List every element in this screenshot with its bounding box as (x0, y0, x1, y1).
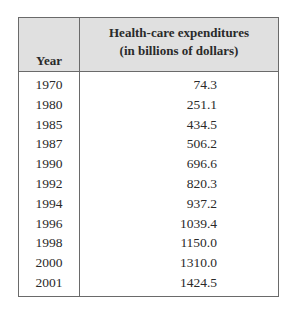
table-row: 19961039.4 (19, 214, 278, 234)
cell-year: 2001 (19, 273, 79, 293)
cell-year: 1996 (19, 214, 79, 234)
cell-year: 1998 (19, 233, 79, 253)
cell-value: 820.3 (80, 174, 217, 194)
table-row: 197074.3 (19, 75, 278, 95)
cell-year: 1970 (19, 75, 79, 95)
table-row: 1994937.2 (19, 194, 278, 214)
cell-year: 1987 (19, 134, 79, 154)
cell-value: 1150.0 (80, 233, 217, 253)
table-row: 1980251.1 (19, 95, 278, 115)
header-expenditures-line1: Health-care expenditures (80, 24, 278, 42)
cell-value: 696.6 (80, 154, 217, 174)
table-row: 20001310.0 (19, 253, 278, 273)
cell-year: 1994 (19, 194, 79, 214)
cell-value: 506.2 (80, 134, 217, 154)
table-row: 19981150.0 (19, 233, 278, 253)
cell-value: 1039.4 (80, 214, 217, 234)
table-row: 1985434.5 (19, 115, 278, 135)
table-row: 1990696.6 (19, 154, 278, 174)
cell-value: 1424.5 (80, 273, 217, 293)
cell-value: 434.5 (80, 115, 217, 135)
expenditures-table: Year Health-care expenditures (in billio… (18, 17, 279, 297)
cell-year: 1980 (19, 95, 79, 115)
header-expenditures-line2: (in billions of dollars) (80, 42, 278, 60)
cell-value: 937.2 (80, 194, 217, 214)
header-expenditures: Health-care expenditures (in billions of… (80, 24, 278, 60)
table-row: 1992820.3 (19, 174, 278, 194)
cell-year: 2000 (19, 253, 79, 273)
cell-value: 1310.0 (80, 253, 217, 273)
cell-value: 251.1 (80, 95, 217, 115)
cell-year: 1992 (19, 174, 79, 194)
table-row: 20011424.5 (19, 273, 278, 293)
table-header: Year Health-care expenditures (in billio… (19, 18, 278, 72)
table-body: 197074.3 1980251.1 1985434.5 1987506.2 1… (19, 75, 278, 293)
cell-year: 1990 (19, 154, 79, 174)
table-row: 1987506.2 (19, 134, 278, 154)
header-year: Year (19, 53, 79, 68)
cell-value: 74.3 (80, 75, 217, 95)
cell-year: 1985 (19, 115, 79, 135)
